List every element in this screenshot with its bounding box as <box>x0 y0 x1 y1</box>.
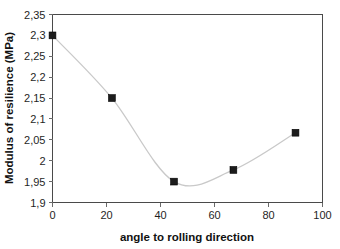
x-tick-label: 60 <box>208 209 220 221</box>
x-tick-label: 40 <box>154 209 166 221</box>
y-tick-label: 2,25 <box>24 50 45 62</box>
y-tick-label: 2,1 <box>30 113 45 125</box>
y-axis-title: Modulus of resilience (MPa) <box>3 32 15 184</box>
y-tick-label: 1,9 <box>30 197 45 209</box>
x-axis-title: angle to rolling direction <box>120 231 254 243</box>
data-point-marker: 45, 1.95 <box>171 178 178 185</box>
y-tick-label: 2,15 <box>24 92 45 104</box>
y-tick-label: 2,2 <box>30 71 45 83</box>
x-tick-label: 80 <box>262 209 274 221</box>
chart-container: 020406080100 1,91,9522,052,12,152,22,252… <box>0 0 340 249</box>
y-tick-label: 2,3 <box>30 29 45 41</box>
resilience-line-chart: 020406080100 1,91,9522,052,12,152,22,252… <box>0 0 340 249</box>
x-tick-label: 0 <box>49 209 55 221</box>
x-tick-label: 20 <box>100 209 112 221</box>
data-point-marker: 0, 2.3 <box>49 32 56 39</box>
x-tick-label: 100 <box>313 209 331 221</box>
data-point-marker: 22, 2.15 <box>109 95 116 102</box>
y-tick-label: 2 <box>39 155 45 167</box>
y-tick-label: 2,05 <box>24 134 45 146</box>
y-tick-label: 1,95 <box>24 176 45 188</box>
data-point-marker: 67, 1.978 <box>230 167 237 174</box>
data-point-marker: 90, 2.067 <box>292 129 299 136</box>
y-tick-label: 2,35 <box>24 9 45 21</box>
